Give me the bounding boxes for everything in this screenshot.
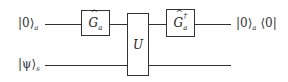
hat-accent: ^	[176, 8, 184, 18]
ancilla-input-label: |0⟩a	[18, 17, 39, 29]
hat-accent: ^	[91, 8, 99, 18]
dagger-superscript: †	[183, 11, 187, 20]
ancilla-input-subscript: a	[34, 24, 38, 32]
gate-subscript: a	[98, 24, 102, 32]
gate-subscript: a	[183, 24, 187, 32]
system-input-ket: |ψ⟩	[18, 57, 36, 71]
ancilla-input-ket: |0⟩	[18, 16, 34, 30]
ancilla-output-ket: |0⟩	[236, 16, 252, 30]
gate-G-a-label: ^Ga	[89, 16, 103, 30]
gate-G-a: ^Ga	[81, 10, 110, 36]
gate-G-a-dagger: ^G†a	[166, 9, 195, 37]
gate-symbol: G	[174, 16, 184, 30]
system-input-label: |ψ⟩s	[18, 58, 40, 70]
gate-U: U	[127, 13, 149, 76]
ancilla-output-bra: ⟨0|	[260, 16, 276, 30]
gate-G-a-dagger-label: ^G†a	[174, 16, 188, 30]
gate-symbol: G	[89, 16, 99, 30]
ancilla-output-subscript: a	[252, 24, 256, 32]
ancilla-output-label: |0⟩a ⟨0|	[236, 17, 277, 29]
gate-U-label: U	[133, 38, 143, 52]
system-input-subscript: s	[36, 65, 40, 73]
